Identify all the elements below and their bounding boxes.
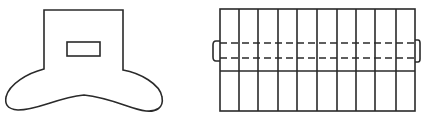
diagram-canvas [0,0,421,118]
flared-body-figure [6,10,163,111]
flared-body-outline [6,10,163,111]
window-rect [67,42,100,56]
left-end-tab [213,41,220,61]
segmented-grid-figure [213,9,420,111]
